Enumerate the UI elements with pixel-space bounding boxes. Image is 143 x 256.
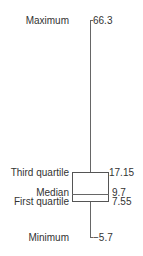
label-maximum: Maximum <box>26 15 69 26</box>
lower-whisker <box>90 201 91 238</box>
value-minimum: −5.7 <box>93 232 113 243</box>
label-first-quartile: First quartile <box>14 196 69 207</box>
value-first-quartile: 7.55 <box>112 196 131 207</box>
value-maximum: 66.3 <box>93 15 112 26</box>
interquartile-box <box>72 172 109 202</box>
label-third-quartile: Third quartile <box>11 167 69 178</box>
median-line <box>72 194 109 195</box>
upper-whisker <box>90 20 91 172</box>
label-minimum: Minimum <box>28 232 69 243</box>
value-third-quartile: 17.15 <box>109 167 134 178</box>
